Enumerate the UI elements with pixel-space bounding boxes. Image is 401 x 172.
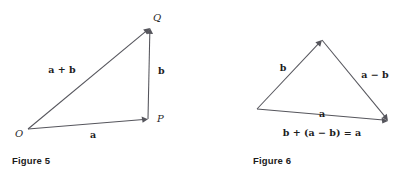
figure-5-caption: Figure 5: [12, 155, 50, 166]
vector-a-plus-b-group: a + b: [28, 28, 150, 129]
vector-a-label: a: [319, 108, 325, 119]
figure-6-panel: b a − b a b + (a − b) = a Figure 6: [200, 0, 401, 172]
point-label-O: O: [15, 128, 23, 139]
vector-b-group: b: [147, 28, 165, 119]
figure-6-diagram: b a − b a b + (a − b) = a: [200, 0, 401, 150]
figure-5-diagram: a b a + b O P Q: [0, 0, 200, 150]
figure-5-panel: a b a + b O P Q Figure 5: [0, 0, 200, 172]
vector-a-minus-b-label: a − b: [361, 69, 389, 80]
point-label-P: P: [156, 113, 164, 124]
vector-a-group: a: [28, 117, 148, 140]
vector-b-label: b: [280, 62, 287, 73]
vector-b-label: b: [158, 65, 165, 76]
vector-b-group: b: [257, 40, 322, 109]
vector-b-shaft: [257, 44, 318, 109]
vector-a-label: a: [90, 129, 96, 140]
vector-a-plus-b-label: a + b: [48, 64, 76, 75]
vector-a-arrowhead: [142, 117, 148, 123]
vector-a-minus-b-group: a − b: [322, 40, 389, 121]
vector-b-shaft: [148, 33, 150, 119]
vector-identity-label: b + (a − b) = a: [283, 127, 361, 138]
point-label-Q: Q: [153, 12, 161, 23]
vector-a-group: a: [257, 108, 388, 124]
figure-6-caption: Figure 6: [253, 155, 291, 166]
vector-a-shaft: [28, 120, 144, 129]
vector-a-plus-b-shaft: [28, 32, 146, 129]
